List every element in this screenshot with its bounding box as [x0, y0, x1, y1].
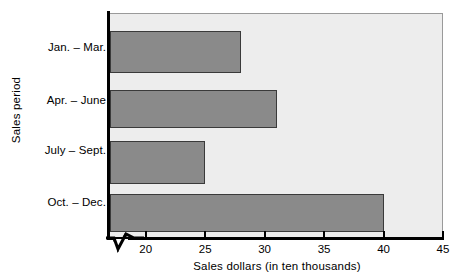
bar-apr-june[interactable]	[110, 90, 277, 128]
x-tick-label-45: 45	[423, 243, 463, 255]
plot-area	[110, 13, 443, 238]
x-tick-label-40: 40	[364, 243, 404, 255]
x-tick-mark-30	[264, 231, 266, 238]
x-tick-mark-20	[145, 231, 147, 238]
category-label-july-sept: July – Sept.	[14, 144, 106, 156]
category-label-jan-mar: Jan. – Mar.	[14, 41, 106, 53]
x-axis-line	[110, 237, 444, 240]
bar-july-sept[interactable]	[110, 141, 205, 184]
category-label-apr-june: Apr. – June	[14, 94, 106, 106]
x-tick-label-20: 20	[126, 243, 166, 255]
x-tick-mark-35	[323, 231, 325, 238]
x-tick-mark-45	[442, 231, 444, 238]
y-axis-line	[107, 11, 110, 240]
category-label-group: Jan. – Mar. Apr. – June July – Sept. Oct…	[8, 0, 106, 280]
x-tick-label-30: 30	[245, 243, 285, 255]
bar-oct-dec[interactable]	[110, 194, 384, 232]
bar-chart: Sales period Jan. – Mar. Apr. – June Jul…	[0, 0, 465, 280]
x-tick-mark-25	[204, 231, 206, 238]
x-axis-title: Sales dollars (in ten thousands)	[110, 260, 444, 272]
x-tick-label-35: 35	[304, 243, 344, 255]
x-tick-mark-40	[383, 231, 385, 238]
bar-jan-mar[interactable]	[110, 31, 241, 73]
x-tick-label-25: 25	[185, 243, 225, 255]
category-label-oct-dec: Oct. – Dec.	[14, 196, 106, 208]
